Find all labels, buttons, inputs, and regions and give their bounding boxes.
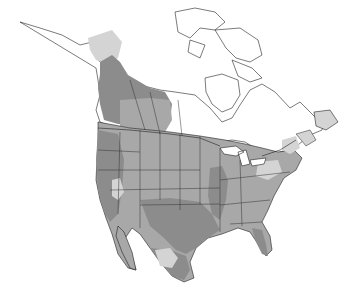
north-america-map xyxy=(0,0,353,293)
range-map xyxy=(0,0,353,293)
range-medium-prairies xyxy=(120,98,172,132)
